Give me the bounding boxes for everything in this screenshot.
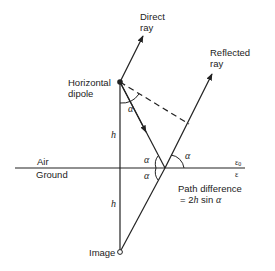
image-label: Image — [89, 247, 115, 258]
path-difference-label: Path difference — [178, 183, 242, 194]
angle-arc-incident-upper — [155, 156, 158, 168]
angle-arc-reflected — [171, 155, 184, 168]
epsilon-label: ε — [235, 170, 239, 179]
dipole-point — [117, 79, 123, 85]
height-upper-label: h — [111, 129, 116, 140]
image-point — [118, 250, 123, 255]
ground-label: Ground — [36, 169, 68, 180]
direct-ray-label-2: ray — [140, 22, 153, 33]
alpha-reflected: α — [185, 150, 191, 161]
height-lower-label: h — [111, 198, 116, 209]
antenna-reflection-diagram: α α α α Direct ray Reflected ray Horizon… — [0, 0, 275, 271]
image-ray — [120, 168, 165, 252]
direct-ray-label-1: Direct — [140, 11, 165, 22]
epsilon0-label: ε0 — [235, 158, 241, 167]
alpha-incident-lower: α — [144, 170, 150, 181]
dipole-label-2: dipole — [68, 88, 93, 99]
reflected-ray-label-2: ray — [210, 58, 223, 69]
air-label: Air — [37, 156, 49, 167]
path-difference-formula: = 2h sin α — [180, 194, 222, 205]
dipole-label-1: Horizontal — [68, 77, 111, 88]
direct-ray-arrow — [120, 36, 143, 82]
alpha-dipole: α — [128, 103, 134, 114]
angle-arc-incident-lower — [155, 168, 158, 180]
reflected-ray-label-1: Reflected — [210, 47, 250, 58]
alpha-incident-upper: α — [144, 154, 150, 165]
angle-arc-dipole — [120, 94, 139, 103]
